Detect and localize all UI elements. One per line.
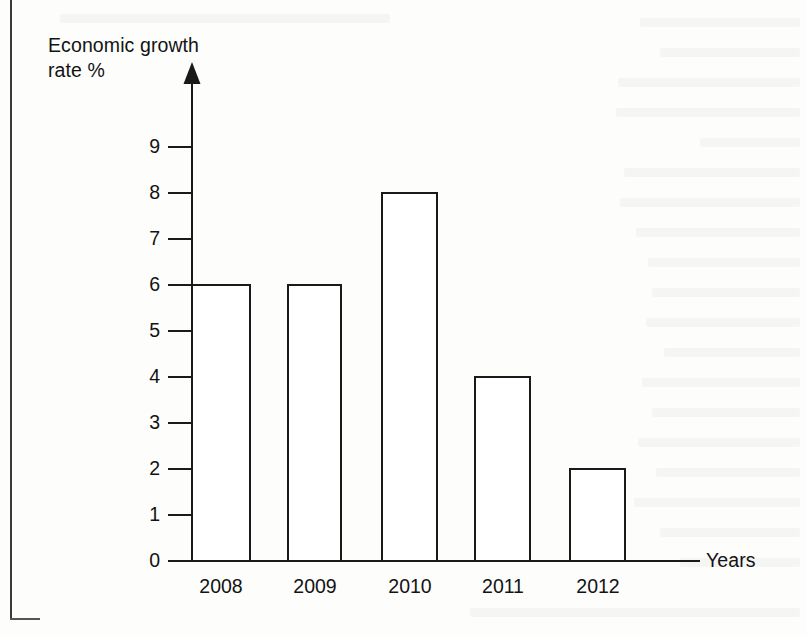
y-tick-label-2: 2 [134, 457, 160, 480]
y-tick-label-1: 1 [134, 503, 160, 526]
bar-2009 [288, 285, 341, 561]
y-tick-label-8: 8 [134, 181, 160, 204]
x-tick-label-2008: 2008 [181, 575, 261, 598]
y-axis-ticks [168, 147, 192, 561]
y-tick-label-0: 0 [134, 549, 160, 572]
y-tick-label-5: 5 [134, 319, 160, 342]
chart-canvas [0, 0, 807, 637]
y-tick-label-3: 3 [134, 411, 160, 434]
x-tick-label-2009: 2009 [275, 575, 355, 598]
bar-2011 [475, 377, 530, 561]
bar-2008 [192, 285, 250, 561]
y-tick-label-9: 9 [134, 135, 160, 158]
x-tick-label-2012: 2012 [558, 575, 638, 598]
bar-chart: Economic growth rate % Years 0 1 2 3 4 5… [0, 0, 807, 637]
bar-2012 [570, 469, 625, 561]
scanned-page: Economic growth rate % Years 0 1 2 3 4 5… [0, 0, 807, 637]
y-tick-label-7: 7 [134, 227, 160, 250]
bar-2010 [382, 193, 437, 561]
x-tick-label-2010: 2010 [370, 575, 450, 598]
y-tick-label-6: 6 [134, 273, 160, 296]
x-tick-label-2011: 2011 [463, 575, 543, 598]
y-axis-title: Economic growth rate % [48, 33, 199, 83]
x-axis-title: Years [706, 548, 756, 573]
bar-series [192, 193, 625, 561]
y-tick-label-4: 4 [134, 365, 160, 388]
